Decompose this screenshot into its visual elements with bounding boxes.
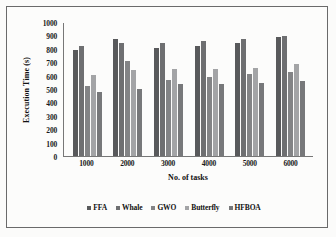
legend-swatch-icon: [229, 206, 233, 210]
bar-ffa-1000: [73, 50, 78, 156]
y-axis-tick-label: 200: [46, 126, 57, 135]
x-axis-title: No. of tasks: [63, 173, 313, 182]
y-axis-tick-label: 100: [46, 139, 57, 148]
legend-swatch-icon: [116, 206, 120, 210]
bar-hfboa-3000: [178, 84, 183, 156]
bar-group: [73, 23, 102, 156]
bar-gwo-4000: [207, 77, 212, 156]
y-axis-tick-label: 800: [46, 45, 57, 54]
legend-label: Whale: [122, 203, 142, 212]
bar-ffa-4000: [195, 46, 200, 156]
bar-butterfly-3000: [172, 69, 177, 156]
y-axis-tick-label: 900: [46, 32, 57, 41]
bar-hfboa-2000: [137, 89, 142, 156]
bar-ffa-3000: [154, 48, 159, 156]
bar-whale-5000: [241, 39, 246, 156]
legend-label: FFA: [93, 203, 107, 212]
x-axis-tick-label: 5000: [229, 159, 270, 173]
bar-group: [235, 23, 264, 156]
legend-item-gwo: GWO: [151, 203, 176, 212]
bar-hfboa-4000: [219, 84, 224, 156]
bar-ffa-6000: [276, 37, 281, 156]
bar-butterfly-6000: [294, 64, 299, 156]
legend-swatch-icon: [87, 206, 91, 210]
bar-butterfly-1000: [91, 75, 96, 156]
bar-hfboa-5000: [259, 83, 264, 156]
bar-whale-2000: [119, 43, 124, 156]
bar-gwo-6000: [288, 72, 293, 156]
y-axis-tick-label: 400: [46, 99, 57, 108]
bar-whale-4000: [201, 41, 206, 156]
legend-item-hfboa: HFBOA: [229, 203, 261, 212]
x-axis-tick-label: 2000: [107, 159, 148, 173]
bar-whale-3000: [160, 43, 165, 156]
y-axis-tick-label: 700: [46, 59, 57, 68]
chart-figure: Execution Time (s) 010020030040050060070…: [0, 0, 336, 237]
legend-item-whale: Whale: [116, 203, 142, 212]
chart-frame: Execution Time (s) 010020030040050060070…: [6, 6, 328, 228]
y-axis-tick-label: 0: [53, 153, 57, 162]
bar-whale-6000: [282, 36, 287, 156]
x-axis-tick-label: 6000: [270, 159, 311, 173]
bar-whale-1000: [79, 46, 84, 156]
legend-item-butterfly: Butterfly: [185, 203, 219, 212]
bar-gwo-2000: [125, 61, 130, 156]
y-axis-tick-label: 300: [46, 112, 57, 121]
bar-ffa-5000: [235, 43, 240, 156]
legend-label: HFBOA: [235, 203, 261, 212]
legend-swatch-icon: [151, 206, 155, 210]
y-axis-ticks: 01002003004005006007008009001000: [7, 23, 61, 157]
y-axis-tick-label: 600: [46, 72, 57, 81]
bar-hfboa-1000: [97, 92, 102, 156]
bar-group: [195, 23, 224, 156]
x-axis-tick-label: 4000: [188, 159, 229, 173]
x-axis-tick-label: 3000: [148, 159, 189, 173]
legend-swatch-icon: [185, 206, 189, 210]
bar-group: [154, 23, 183, 156]
y-axis-tick-label: 500: [46, 86, 57, 95]
bar-hfboa-6000: [300, 81, 305, 156]
bar-group: [113, 23, 142, 156]
bar-gwo-1000: [85, 86, 90, 156]
legend-label: Butterfly: [191, 203, 219, 212]
plot-area: [63, 23, 313, 157]
x-axis-tick-label: 1000: [66, 159, 107, 173]
bar-ffa-2000: [113, 39, 118, 156]
bar-butterfly-5000: [253, 68, 258, 156]
bar-butterfly-4000: [213, 69, 218, 156]
legend-label: GWO: [157, 203, 176, 212]
x-axis-ticks: 100020003000400050006000: [63, 159, 313, 173]
bar-gwo-3000: [166, 80, 171, 156]
y-axis-tick-label: 1000: [43, 19, 57, 28]
chart-legend: FFAWhaleGWOButterflyHFBOA: [23, 203, 325, 212]
bar-butterfly-2000: [131, 70, 136, 156]
legend-item-ffa: FFA: [87, 203, 107, 212]
bar-gwo-5000: [247, 74, 252, 156]
bar-group: [276, 23, 305, 156]
bar-groups: [64, 23, 313, 156]
